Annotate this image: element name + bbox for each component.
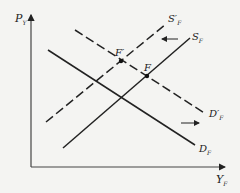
supply-demand-diagram: PY YF SF S′F DF D′F F′ F	[0, 0, 240, 193]
supply-curve-s-f-prime	[46, 24, 166, 122]
supply-label-s-f-prime: S′F	[168, 13, 182, 26]
point-label-f-prime: F′	[114, 47, 125, 58]
demand-curve-d-f	[48, 50, 195, 145]
point-label-f: F	[143, 62, 152, 73]
demand-curve-d-f-prime	[75, 30, 206, 114]
demand-label-d-f-prime: D′F	[208, 108, 224, 121]
x-axis-label: YF	[216, 173, 228, 187]
equilibrium-point-f-prime	[119, 59, 123, 63]
y-axis-label: PY	[14, 12, 27, 26]
supply-label-s-f: SF	[192, 31, 204, 44]
demand-label-d-f: DF	[198, 143, 212, 156]
equilibrium-point-f	[145, 74, 149, 78]
